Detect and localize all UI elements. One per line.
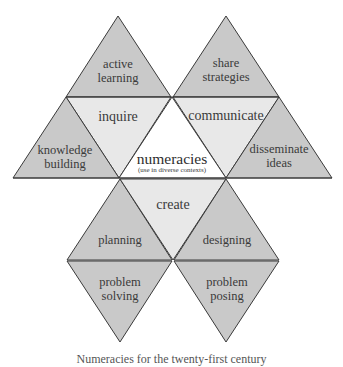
label-numeracies: numeracies (use in diverse contexts) (137, 151, 208, 174)
label-share-strategies: share strategies (202, 56, 249, 84)
label-inquire: inquire (98, 110, 138, 124)
label-line: problem (206, 275, 248, 289)
label-line: ideas (249, 156, 308, 170)
center-title: numeracies (137, 151, 208, 166)
label-problem-solving: problem solving (99, 275, 141, 303)
label-line: posing (206, 289, 248, 303)
figure-caption: Numeracies for the twenty-first century (0, 352, 343, 367)
label-line: disseminate (249, 142, 308, 156)
label-disseminate-ideas: disseminate ideas (249, 142, 308, 170)
label-problem-posing: problem posing (206, 275, 248, 303)
label-line: building (38, 157, 93, 171)
label-knowledge-building: knowledge building (38, 143, 93, 171)
label-line: active (98, 57, 139, 71)
center-subtitle: (use in diverse contexts) (137, 166, 208, 174)
label-active-learning: active learning (98, 57, 139, 85)
label-line: share (202, 56, 249, 70)
label-line: problem (99, 275, 141, 289)
label-line: learning (98, 71, 139, 85)
label-line: knowledge (38, 143, 93, 157)
label-create: create (156, 198, 189, 212)
label-communicate: communicate (188, 109, 263, 123)
label-line: strategies (202, 70, 249, 84)
label-designing: designing (203, 233, 252, 247)
label-planning: planning (98, 233, 142, 247)
label-line: solving (99, 289, 141, 303)
